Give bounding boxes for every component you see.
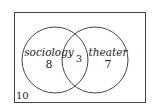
sociology-count: 8: [46, 58, 53, 71]
theater-count: 7: [105, 58, 112, 71]
universe-count: 10: [16, 90, 29, 101]
sociology-label: sociology: [24, 46, 75, 58]
venn-diagram: sociology 8 theater 7 3 10: [0, 0, 152, 107]
intersection-count: 3: [76, 53, 82, 64]
theater-circle: [62, 27, 128, 93]
theater-label: theater: [89, 46, 129, 58]
